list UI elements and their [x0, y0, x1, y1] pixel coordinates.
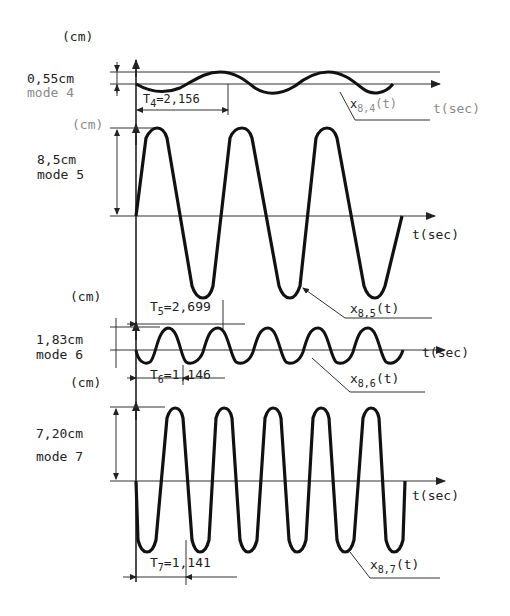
mode-6-period-label: T6=1,146 [150, 368, 211, 385]
mode-5-amplitude-label: 8,5cm [37, 153, 76, 166]
mode-4-amplitude-label: 0,55cm [27, 72, 74, 85]
mode-5-time-axis-label: t(sec) [412, 228, 459, 241]
mode-4-time-axis-label: t(sec) [433, 102, 480, 115]
mode-7-title: mode 7 [36, 450, 83, 463]
mode-shapes-diagram [0, 0, 510, 616]
mode-5-curve-label: x8,5(t) [350, 302, 399, 319]
mode-6-time-axis-label: t(sec) [422, 346, 469, 359]
mode-6-amplitude-label: 1,83cm [36, 333, 83, 346]
mode-4-title: mode 4 [27, 86, 74, 99]
mode-5-period-label: T5=2,699 [150, 300, 211, 317]
curve-mode-4 [136, 72, 393, 93]
curve-mode-5 [136, 128, 402, 298]
mode-7-period-label: T7=1,141 [150, 556, 211, 573]
mode-7-curve-label: x8,7(t) [370, 558, 419, 575]
mode-7-time-axis-label: t(sec) [412, 489, 459, 502]
curve-mode-6 [136, 328, 403, 363]
mode-7-unit-label: (cm) [70, 376, 101, 389]
mode-7-amplitude-label: 7,20cm [36, 427, 83, 440]
mode-6-curve-label: x8,6(t) [350, 372, 399, 389]
mode-5-unit-label: (cm) [72, 118, 103, 131]
mode-4-unit-label: (cm) [62, 30, 93, 43]
mode-4-curve-label: x8,4(t) [350, 98, 397, 114]
mode-6-title: mode 6 [36, 348, 83, 361]
mode-6-unit-label: (cm) [70, 290, 101, 303]
mode-5-title: mode 5 [37, 168, 84, 181]
mode-4-period-label: T4=2,156 [143, 93, 200, 109]
curve-mode-7 [136, 408, 405, 552]
